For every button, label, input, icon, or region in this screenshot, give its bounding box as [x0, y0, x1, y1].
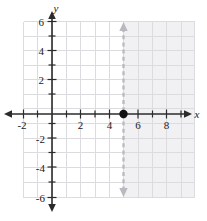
x-tick-label-2: 2	[78, 119, 84, 131]
x-axis-left-arrowhead	[4, 110, 12, 118]
y-axis-bottom-arrowhead	[48, 204, 56, 212]
plotted-point	[119, 110, 127, 118]
y-axis	[48, 11, 57, 212]
y-tick-label-2: 2	[39, 74, 45, 86]
shaded-region-right-of-line	[124, 22, 195, 198]
y-tick-label-neg4: -4	[36, 162, 46, 174]
x-tick-label-4: 4	[107, 119, 113, 131]
x-axis-label: x	[194, 108, 200, 120]
graph-canvas: -2 2 4 6 8 6 4 2 -2 -4 -6 x y	[0, 0, 207, 221]
coordinate-plane-figure: -2 2 4 6 8 6 4 2 -2 -4 -6 x y	[0, 0, 207, 221]
x-tick-label-8: 8	[164, 119, 170, 131]
x-tick-label-neg2: -2	[17, 119, 26, 131]
y-tick-label-4: 4	[39, 45, 45, 57]
y-tick-label-neg2: -2	[36, 133, 45, 145]
y-axis-label: y	[53, 2, 59, 14]
y-tick-label-neg6: -6	[36, 192, 46, 204]
x-tick-label-6: 6	[135, 119, 141, 131]
y-tick-label-6: 6	[39, 16, 45, 28]
